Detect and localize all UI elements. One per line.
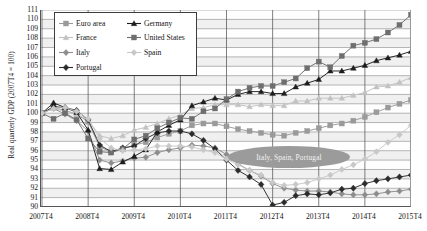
legend-label: Euro area [76, 19, 105, 28]
legend-marker-icon [127, 33, 141, 42]
legend-label: France [76, 33, 97, 42]
legend-item-germany[interactable]: Germany [127, 16, 198, 31]
legend-marker-icon [59, 33, 73, 42]
legend-item-italy[interactable]: Italy [59, 45, 127, 60]
x-tick-label: 2015T4 [383, 212, 427, 221]
legend-item-portugal[interactable]: Portugal [59, 60, 127, 75]
legend-label: Italy [76, 48, 90, 57]
legend-label: Spain [144, 48, 161, 57]
legend-item-united-states[interactable]: United States [127, 31, 198, 46]
legend-item-france[interactable]: France [59, 31, 127, 46]
legend-label: United States [144, 33, 185, 42]
legend-marker-icon [127, 48, 141, 57]
legend-marker-icon [59, 63, 73, 72]
legend-label: Germany [144, 19, 172, 28]
legend-marker-icon [59, 19, 73, 28]
legend-marker-icon [127, 19, 141, 28]
legend-item-spain[interactable]: Spain [127, 45, 198, 60]
legend-label: Portugal [76, 63, 102, 72]
chart-legend: Euro areaGermanyFranceUnited StatesItaly… [54, 12, 197, 76]
legend-item-euro-area[interactable]: Euro area [59, 16, 127, 31]
annotation-ellipse-italy-spain-portugal: Italy, Spain, Portugal [228, 146, 350, 168]
legend-marker-icon [59, 48, 73, 57]
annotation-label: Italy, Spain, Portugal [256, 153, 322, 162]
